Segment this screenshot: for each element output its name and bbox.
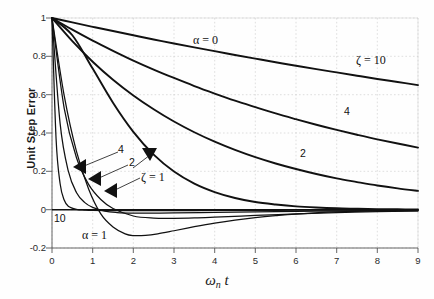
x-axis-title-t: t: [225, 272, 229, 288]
annotation-zeta-2-left: 2: [129, 156, 135, 168]
curve-zeta-2-alpha-0: [52, 18, 418, 191]
x-tick-5: 5: [243, 255, 267, 266]
x-tick-8: 8: [365, 255, 389, 266]
curve-zeta-4-alpha-0: [52, 18, 418, 148]
x-axis-title-subscript: n: [216, 279, 221, 290]
annotation-zeta-4-right: 4: [344, 105, 350, 117]
x-tick-3: 3: [162, 255, 186, 266]
annotation-zeta-10: ζ = 10: [356, 53, 386, 68]
y-tick--0.2: -0.2: [12, 242, 46, 253]
annotation-zeta-1: ζ = 1: [141, 170, 165, 185]
x-tick-6: 6: [284, 255, 308, 266]
annotation-alpha-1: α = 1: [82, 228, 107, 243]
annotation-ten: 10: [54, 212, 66, 224]
annotation-zeta-2-right: 2: [300, 147, 306, 159]
y-tick-1: 1: [12, 12, 46, 23]
annotation-alpha-0: α = 0: [193, 33, 218, 48]
curve-zeta-1-alpha-1: [52, 18, 418, 236]
x-tick-0: 0: [40, 255, 64, 266]
y-axis-title: Unit Step Error: [25, 53, 37, 203]
y-axis-ticks: [46, 18, 52, 248]
x-axis-title: ωn t: [0, 272, 434, 290]
x-tick-1: 1: [81, 255, 105, 266]
x-tick-7: 7: [325, 255, 349, 266]
annotation-zeta-4-left: 4: [118, 143, 124, 155]
x-tick-9: 9: [406, 255, 430, 266]
x-axis-title-omega: ω: [205, 272, 216, 288]
x-tick-4: 4: [203, 255, 227, 266]
x-tick-2: 2: [121, 255, 145, 266]
figure-unit-step-error: 1 0.8 0.6 0.4 0.2 0 -0.2 0 1 2 3 4 5 6 7…: [0, 0, 434, 299]
y-tick-0: 0: [12, 204, 46, 215]
x-axis-ticks: [52, 248, 418, 253]
data-curves: [52, 18, 418, 236]
